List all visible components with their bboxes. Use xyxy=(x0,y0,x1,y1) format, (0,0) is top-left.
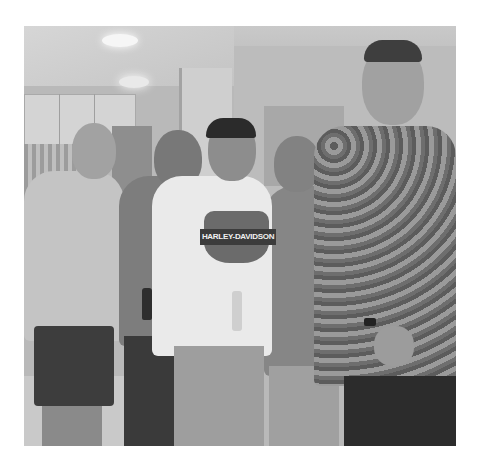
person-1-shorts xyxy=(34,326,114,406)
person-3-shorts xyxy=(174,346,264,446)
cabinet-divider xyxy=(59,94,60,144)
baseball-cap xyxy=(206,118,256,138)
person-5-shorts xyxy=(344,376,456,446)
person-5-hair xyxy=(364,40,422,62)
person-1-shirt xyxy=(24,171,124,341)
person-3-shirt xyxy=(152,176,272,356)
shirt-logo-text: HARLEY-DAVIDSON xyxy=(200,229,276,245)
beer-bottle-2 xyxy=(232,291,242,331)
group-photo: HARLEY-DAVIDSON xyxy=(24,26,456,446)
ceiling-light-2 xyxy=(119,76,149,88)
ceiling-light xyxy=(102,34,138,47)
person-1-head xyxy=(72,123,116,179)
clasped-hands xyxy=(374,326,414,366)
wristwatch-icon xyxy=(364,318,376,326)
beer-bottle xyxy=(142,288,152,320)
person-1-legs xyxy=(42,406,102,446)
